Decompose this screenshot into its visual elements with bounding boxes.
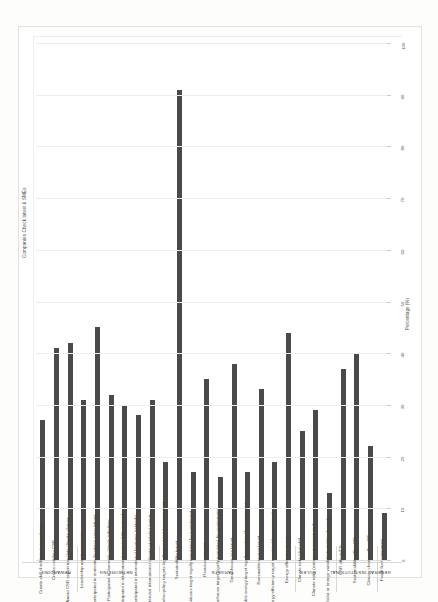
group-label-general: GENERAL [368,566,391,580]
tick-label-100: 100 [401,43,406,50]
plot-left-border [33,36,34,562]
tick-label-10: 10 [401,508,406,513]
scanned-figure-page: Companies Check latest & SMEs 0102030405… [0,0,438,602]
group-label-targets: TARGETS [156,566,289,580]
gridline-40 [36,353,391,354]
category-label: Greenhouse target legally mandated by go… [215,509,220,602]
category-label: Participated in domestic business associ… [92,515,97,602]
category-label: Create skill checklists to incentives [38,526,43,594]
tick-label-60: 60 [401,249,406,254]
bar[interactable] [341,369,346,560]
chart-title: Companies Check latest & SMEs [22,128,27,258]
gridline-90 [36,95,391,96]
gridline-10 [36,508,391,509]
bar[interactable] [177,90,182,560]
category-label: Participated in international sustainabi… [120,511,125,602]
tick-label-0: 0 [401,560,406,562]
tick-label-80: 80 [401,146,406,151]
category-label: Energy efficiency target mandated by gov… [270,511,275,602]
gridline-60 [36,250,391,251]
category-label: Solar or energy variability/volatility o… [325,517,330,602]
tick-mark-20 [387,457,391,458]
tick-mark-80 [387,146,391,147]
category-label: Renewable energy target legally mandated… [243,503,248,602]
category-label: Residuous target legally mandated by gov… [188,511,193,602]
tick-mark-10 [387,508,391,509]
tick-label-30: 30 [401,404,406,409]
bar[interactable] [259,389,264,560]
bar[interactable] [232,364,237,560]
group-label-rewarding: REWARDING [36,566,76,580]
bar[interactable] [54,348,59,560]
value-axis: 0102030405060708090100 [391,43,405,560]
tick-mark-40 [387,353,391,354]
plot-top-border [33,36,402,37]
category-label: Award CSR expert translate climate chang… [65,517,70,602]
category-label: Participated in domestic climate initiat… [106,519,111,601]
tick-mark-50 [387,302,391,303]
tick-mark-30 [387,405,391,406]
tick-mark-100 [387,43,391,44]
gridline-70 [36,198,391,199]
group-label-institutional: INSTITUTIONAL [328,566,368,580]
bar[interactable] [204,379,209,560]
tick-label-70: 70 [401,198,406,203]
gridline-100 [36,43,391,44]
tick-label-90: 90 [401,94,406,99]
category-label: Attended international climate or relate… [147,514,152,602]
tick-label-20: 20 [401,456,406,461]
gridline-80 [36,146,391,147]
gridline-50 [36,302,391,303]
tick-mark-60 [387,250,391,251]
group-section-labels: REWARDINGNETWORKINGTARGETSRULESINSTITUTI… [36,566,391,580]
tick-label-40: 40 [401,353,406,358]
group-label-rules: RULES [288,566,328,580]
tick-mark-70 [387,198,391,199]
tick-mark-90 [387,95,391,96]
value-axis-label: Percentage (%) [405,298,410,330]
plot-area [36,43,391,560]
group-label-networking: NETWORKING [76,566,156,580]
category-label: Climate risks (extreme temperatures) [311,524,316,596]
gridline-30 [36,405,391,406]
category-label: Resource/recycling targets legally manda… [161,501,166,602]
category-label: Participated in international business n… [133,515,138,602]
gridline-20 [36,457,391,458]
bar[interactable] [286,333,291,560]
tick-mark-0 [387,560,391,561]
